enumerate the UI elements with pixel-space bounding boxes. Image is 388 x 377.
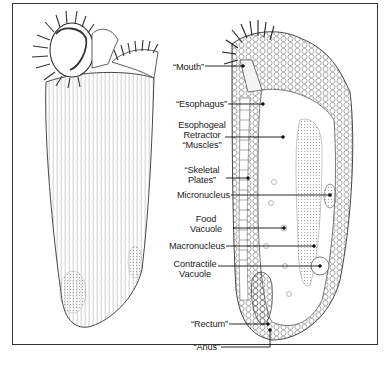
label-micronucleus: Micronucleus [164, 190, 230, 200]
spot [60, 271, 86, 313]
label-contractile-vacuole: Contractile Vacuole [170, 259, 220, 279]
external-view-organism [32, 11, 158, 327]
cross-section-organism [222, 20, 353, 340]
label-food-vacuole: Food Vacuole [180, 214, 232, 234]
label-esophagus: “Esophagus” [170, 99, 227, 109]
label-anus: “Anus” [180, 342, 220, 352]
label-macronucleus: Macronucleus [160, 241, 225, 251]
label-mouth: “Mouth” [160, 62, 204, 72]
label-rectum: “Rectum” [180, 319, 228, 329]
label-esophogeal-retractor-muscles: Esophogeal Retractor “Muscles” [176, 120, 228, 150]
spot [128, 246, 142, 278]
label-skeletal-plates: “Skeletal Plates” [180, 165, 224, 185]
